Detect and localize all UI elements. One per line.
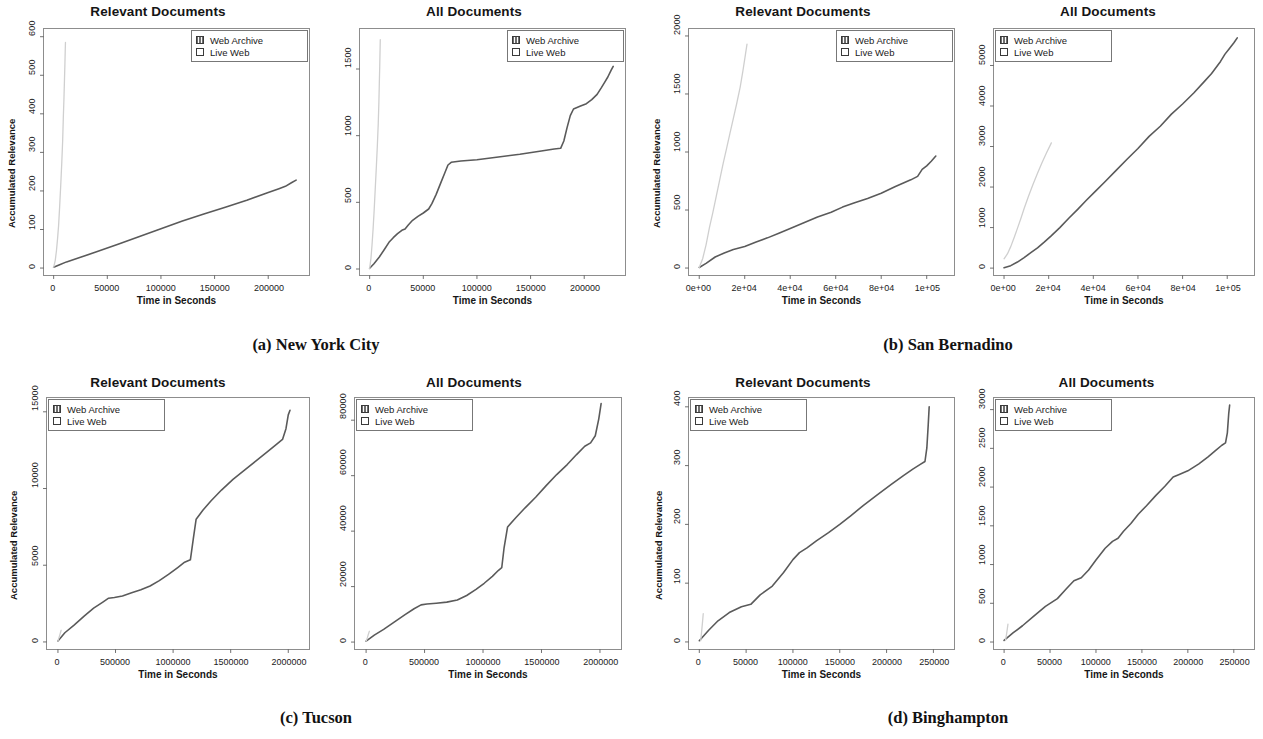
panel-title: Relevant Documents <box>645 4 961 19</box>
series-line-web-archive <box>370 66 614 268</box>
x-axis-label: Time in Seconds <box>359 295 626 306</box>
plot-svg <box>47 398 309 649</box>
panel-title: Relevant Documents <box>0 375 316 390</box>
x-tick-label: 0 <box>363 657 368 667</box>
legend-item-web-archive: Web Archive <box>695 403 800 415</box>
panel-title: Relevant Documents <box>645 375 961 390</box>
plot-svg <box>994 29 1254 275</box>
caption-b: (b) San Bernadino <box>883 335 1012 355</box>
legend-item-web-archive: Web Archive <box>196 34 301 46</box>
panel-title: Relevant Documents <box>0 4 316 19</box>
legend-label-live-web: Live Web <box>210 47 249 58</box>
figure-root: Relevant Documents Accumulated Relevance… <box>0 0 1263 739</box>
x-tick-label: 1e+05 <box>1215 283 1240 293</box>
legend-label-live-web: Live Web <box>709 416 748 427</box>
x-tick-label: 500000 <box>409 657 439 667</box>
legend-item-live-web: Live Web <box>695 415 800 427</box>
x-tick-label: 6e+04 <box>823 283 848 293</box>
legend-label-web-archive: Web Archive <box>1014 404 1067 415</box>
legend-box: Web ArchiveLive Web <box>995 30 1112 62</box>
x-axis-label: Time in Seconds <box>354 669 622 680</box>
x-tick-label: 1e+05 <box>915 283 940 293</box>
y-axis-label: Accumulated Relevance <box>653 460 664 600</box>
plot-svg <box>689 29 954 275</box>
plot-area-b-relevant <box>688 28 955 276</box>
legend-item-live-web: Live Web <box>512 46 617 58</box>
x-tick-label: 100000 <box>462 283 492 293</box>
subfigure-a: Relevant Documents Accumulated Relevance… <box>0 0 632 365</box>
x-tick-label: 150000 <box>200 283 230 293</box>
filled-square-icon <box>1000 36 1008 44</box>
subfigure-d: Relevant Documents Accumulated Relevance… <box>632 368 1263 739</box>
plot-svg <box>689 398 954 649</box>
panel-a-relevant: Relevant Documents Accumulated Relevance… <box>0 0 316 310</box>
filled-square-icon <box>53 405 61 413</box>
plot-area-d-relevant <box>688 397 955 650</box>
panel-title: All Documents <box>316 375 632 390</box>
x-tick-label: 150000 <box>1127 657 1157 667</box>
x-tick-label: 150000 <box>825 657 855 667</box>
x-tick-label: 1500000 <box>524 657 559 667</box>
x-tick-label: 8e+04 <box>1170 283 1195 293</box>
x-tick-label: 50000 <box>1037 657 1062 667</box>
x-tick-label: 100000 <box>1081 657 1111 667</box>
filled-square-icon <box>196 36 204 44</box>
y-axis-label: Accumulated Relevance <box>6 88 17 228</box>
legend-box: Web ArchiveLive Web <box>507 30 624 62</box>
x-tick-label: 2e+04 <box>1035 283 1060 293</box>
x-tick-label: 50000 <box>94 283 119 293</box>
empty-square-icon <box>53 417 61 425</box>
legend-label-live-web: Live Web <box>375 416 414 427</box>
legend-label-web-archive: Web Archive <box>709 404 762 415</box>
x-axis-label: Time in Seconds <box>46 669 310 680</box>
caption-d: (d) Binghampton <box>888 708 1009 728</box>
legend-label-web-archive: Web Archive <box>526 35 579 46</box>
plot-area-a-relevant <box>43 28 310 276</box>
panel-a-all: All Documents Time in Seconds 0500001000… <box>316 0 632 310</box>
x-tick-label: 100000 <box>778 657 808 667</box>
subfigure-c: Relevant Documents Accumulated Relevance… <box>0 368 632 739</box>
x-tick-label: 100000 <box>146 283 176 293</box>
x-tick-label: 4e+04 <box>1080 283 1105 293</box>
x-tick-label: 0 <box>50 283 55 293</box>
series-line-web-archive <box>366 404 601 642</box>
legend-item-live-web: Live Web <box>1000 46 1105 58</box>
legend-item-live-web: Live Web <box>53 415 158 427</box>
plot-area-c-relevant <box>46 397 310 650</box>
legend-item-live-web: Live Web <box>196 46 301 58</box>
x-tick-label: 250000 <box>1220 657 1250 667</box>
panel-title: All Documents <box>950 4 1263 19</box>
x-tick-label: 0 <box>696 657 701 667</box>
x-tick-label: 1000000 <box>156 657 191 667</box>
x-tick-label: 2000000 <box>272 657 307 667</box>
x-tick-label: 0e+00 <box>990 283 1015 293</box>
legend-label-live-web: Live Web <box>1014 47 1053 58</box>
x-tick-label: 200000 <box>254 283 284 293</box>
legend-label-web-archive: Web Archive <box>1014 35 1067 46</box>
legend-item-web-archive: Web Archive <box>361 403 466 415</box>
x-tick-label: 50000 <box>733 657 758 667</box>
empty-square-icon <box>512 48 520 56</box>
y-axis-label: Accumulated Relevance <box>651 88 662 228</box>
caption-c: (c) Tucson <box>280 708 352 728</box>
empty-square-icon <box>361 417 369 425</box>
x-axis-label: Time in Seconds <box>993 669 1255 680</box>
x-tick-label: 200000 <box>1173 657 1203 667</box>
plot-area-c-all <box>354 397 622 650</box>
x-axis-label: Time in Seconds <box>688 669 955 680</box>
plot-area-d-all <box>993 397 1255 650</box>
x-tick-label: 2e+04 <box>732 283 757 293</box>
x-tick-label: 50000 <box>410 283 435 293</box>
x-tick-label: 0 <box>1001 657 1006 667</box>
panel-c-relevant: Relevant Documents Accumulated Relevance… <box>0 368 316 683</box>
panel-d-all: All Documents Time in Seconds 0500001000… <box>950 368 1263 683</box>
panel-b-relevant: Relevant Documents Accumulated Relevance… <box>645 0 961 310</box>
legend-item-web-archive: Web Archive <box>53 403 158 415</box>
caption-a: (a) New York City <box>252 335 379 355</box>
legend-item-web-archive: Web Archive <box>841 34 946 46</box>
x-tick-label: 8e+04 <box>869 283 894 293</box>
filled-square-icon <box>512 36 520 44</box>
legend-label-web-archive: Web Archive <box>855 35 908 46</box>
legend-box: Web ArchiveLive Web <box>356 399 473 431</box>
legend-item-web-archive: Web Archive <box>1000 403 1105 415</box>
